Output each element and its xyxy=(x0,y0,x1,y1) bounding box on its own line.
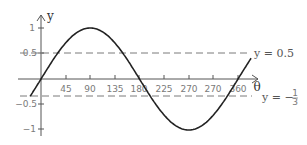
x-tick-label: 225 xyxy=(155,84,172,94)
y-axis-label: y xyxy=(46,9,54,23)
x-tick-label: 90 xyxy=(84,84,96,94)
x-tick-label: 270 xyxy=(204,84,221,94)
ref-line-neg-third-label: y = − xyxy=(261,91,294,104)
fraction-denominator: 3 xyxy=(292,97,298,107)
y-tick-label: 1 xyxy=(29,23,35,33)
y-tick-label: 0.5 xyxy=(23,48,37,58)
sine-chart: 1 0.5 −0.5 −1 45 90 135 180 225 270 270 … xyxy=(0,0,307,145)
x-ticks xyxy=(66,75,238,79)
y-tick-label: −0.5 xyxy=(15,99,37,109)
y-tick-label: −1 xyxy=(23,124,36,134)
ref-line-half-label: y = 0.5 xyxy=(253,47,294,60)
x-tick-label: 45 xyxy=(60,84,71,94)
x-tick-label: 270 xyxy=(180,84,197,94)
x-axis-label: θ xyxy=(253,80,260,94)
x-tick-label: 135 xyxy=(106,84,123,94)
